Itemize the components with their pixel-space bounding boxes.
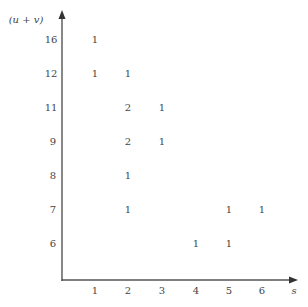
cell-value: 1: [92, 69, 98, 79]
x-tick: 5: [226, 286, 232, 296]
cell-value: 1: [92, 35, 98, 45]
cell-value: 1: [125, 69, 131, 79]
cell-value: 1: [125, 171, 131, 181]
y-tick: 7: [50, 205, 56, 215]
cell-value: 1: [259, 205, 265, 215]
cell-value: 1: [193, 239, 199, 249]
y-tick: 11: [45, 103, 58, 113]
x-tick: 2: [125, 286, 131, 296]
y-tick: 12: [45, 69, 58, 79]
cell-value: 1: [159, 137, 165, 147]
y-axis-label: (u + v): [9, 15, 44, 25]
cell-value: 1: [159, 103, 165, 113]
y-axis-arrow-icon: [59, 10, 66, 19]
y-tick: 9: [50, 137, 56, 147]
cell-value: 1: [226, 239, 232, 249]
y-tick: 16: [45, 35, 58, 45]
axes: [0, 0, 308, 307]
cell-value: 1: [125, 205, 131, 215]
x-tick: 6: [259, 286, 265, 296]
cell-value: 2: [125, 103, 131, 113]
y-tick: 8: [50, 171, 56, 181]
x-axis-label: s: [291, 286, 296, 296]
x-axis-arrow-icon: [289, 277, 298, 284]
y-tick: 6: [50, 239, 56, 249]
cell-value: 1: [226, 205, 232, 215]
x-tick: 3: [159, 286, 165, 296]
cell-value: 2: [125, 137, 131, 147]
x-tick: 4: [193, 286, 199, 296]
x-tick: 1: [92, 286, 98, 296]
